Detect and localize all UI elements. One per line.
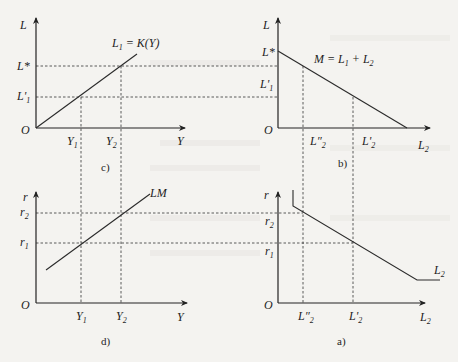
d-r1-label: r1 [20, 235, 29, 251]
a-L2p-label: L'2 [348, 309, 362, 325]
b-L2p-label: L'2 [361, 134, 375, 150]
c-Lstar-label: L* [16, 59, 30, 73]
d-Y-axis-label: Y [177, 310, 185, 324]
c-L1-curve [36, 54, 137, 128]
b-L2-axis-label: L2 [417, 138, 429, 154]
c-L1p-label: L'1 [16, 89, 30, 105]
four-panel-diagram: L O Y L1 = K(Y) L* L'1 Y1 Y2 c) L O L* L… [0, 0, 458, 362]
a-L2-curve [293, 190, 440, 280]
a-L2pp-label: L″2 [297, 309, 314, 325]
b-Lstar-label: L* [261, 45, 275, 59]
d-LM-curve [46, 194, 150, 270]
a-curve-label: L2 [433, 263, 445, 279]
panel-a: r O r2 r1 L2 L″2 L'2 L2 a) [264, 188, 445, 348]
a-caption: a) [337, 335, 346, 348]
b-L2pp-label: L″2 [309, 134, 326, 150]
a-r-axis-label: r [264, 188, 269, 202]
d-origin-label: O [21, 298, 30, 312]
c-Y2-label: Y2 [106, 134, 117, 150]
b-origin-label: O [264, 123, 273, 137]
c-Y1-label: Y1 [67, 134, 78, 150]
b-caption: b) [338, 157, 348, 170]
b-L1p-label: L'1 [259, 77, 273, 93]
background-bleed-through [150, 35, 450, 256]
a-origin-label: O [264, 298, 273, 312]
d-LM-label: LM [149, 186, 168, 200]
panel-b: L O L* L'1 M = L1 + L2 L″2 L'2 L2 b) [259, 18, 430, 303]
d-caption: d) [101, 335, 111, 348]
a-L2-axis-label: L2 [419, 310, 431, 326]
c-origin-label: O [21, 123, 30, 137]
c-caption: c) [101, 161, 110, 174]
c-curve-label: L1 = K(Y) [111, 36, 159, 52]
b-L-axis-label: L [262, 18, 270, 32]
c-L-axis-label: L [19, 18, 27, 32]
d-r-axis-label: r [23, 190, 28, 204]
b-curve-label: M = L1 + L2 [313, 52, 374, 68]
d-Y1-label: Y1 [76, 309, 87, 325]
a-r2-label: r2 [265, 214, 274, 230]
d-Y2-label: Y2 [116, 309, 127, 325]
d-r2-label: r2 [20, 205, 29, 221]
a-r1-label: r1 [265, 244, 274, 260]
